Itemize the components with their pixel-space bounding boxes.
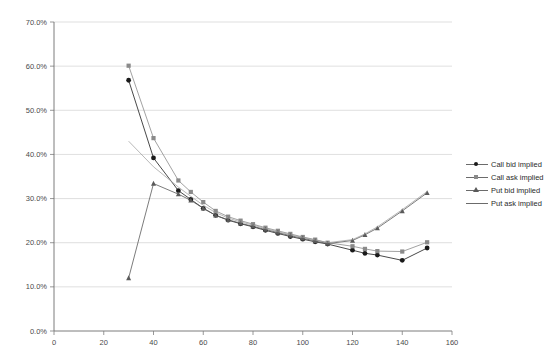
- x-axis-tick-label: 160: [446, 338, 459, 347]
- x-axis-tick-label: 80: [249, 338, 257, 347]
- y-axis-tick-label: 70.0%: [26, 18, 48, 27]
- y-axis-tick-label: 10.0%: [26, 282, 48, 291]
- legend-marker-square-icon: [466, 172, 488, 184]
- x-axis-tick-label: 20: [100, 338, 108, 347]
- y-axis-tick-label: 50.0%: [26, 106, 48, 115]
- data-point-marker: [151, 181, 156, 186]
- legend-label: Put bid implied: [488, 186, 540, 195]
- x-axis-tick-label: 100: [296, 338, 309, 347]
- data-point-marker: [176, 178, 180, 182]
- data-point-marker: [400, 249, 404, 253]
- data-point-marker: [151, 136, 155, 140]
- chart-legend: Call bid implied Call ask implied Put bi…: [466, 158, 554, 210]
- data-point-marker: [201, 200, 205, 204]
- data-point-marker: [126, 78, 131, 83]
- y-axis-tick-label: 0.0%: [30, 327, 47, 336]
- legend-marker-line-icon: [466, 198, 488, 210]
- data-point-marker: [425, 240, 429, 244]
- implied-volatility-chart: 0.0%10.0%20.0%30.0%40.0%50.0%60.0%70.0%0…: [0, 0, 558, 355]
- x-axis-tick-label: 120: [346, 338, 359, 347]
- legend-label: Call bid implied: [488, 160, 542, 169]
- data-point-marker: [375, 253, 380, 258]
- y-axis-tick-label: 40.0%: [26, 150, 48, 159]
- data-point-marker: [400, 258, 405, 263]
- x-axis-tick-label: 60: [199, 338, 207, 347]
- legend-marker-triangle-icon: [466, 185, 488, 197]
- legend-item-call-bid-implied[interactable]: Call bid implied: [466, 158, 554, 171]
- legend-item-put-bid-implied[interactable]: Put bid implied: [466, 184, 554, 197]
- legend-label: Call ask implied: [488, 173, 544, 182]
- data-point-marker: [126, 275, 131, 280]
- data-point-marker: [189, 190, 193, 194]
- y-axis-tick-label: 30.0%: [26, 194, 48, 203]
- data-point-marker: [375, 249, 379, 253]
- data-point-marker: [425, 246, 430, 251]
- data-point-marker: [363, 247, 367, 251]
- data-point-marker: [350, 248, 355, 253]
- y-axis-tick-label: 60.0%: [26, 62, 48, 71]
- legend-marker-circle-icon: [466, 159, 488, 171]
- x-axis-tick-label: 140: [396, 338, 409, 347]
- x-axis-tick-label: 0: [52, 338, 56, 347]
- x-axis-tick-label: 40: [149, 338, 157, 347]
- data-point-marker: [350, 244, 354, 248]
- data-point-marker: [151, 156, 156, 161]
- data-point-marker: [363, 251, 368, 256]
- legend-item-put-ask-implied[interactable]: Put ask implied: [466, 197, 554, 210]
- data-point-marker: [127, 64, 131, 68]
- y-axis-tick-label: 20.0%: [26, 238, 48, 247]
- legend-item-call-ask-implied[interactable]: Call ask implied: [466, 171, 554, 184]
- legend-label: Put ask implied: [488, 199, 542, 208]
